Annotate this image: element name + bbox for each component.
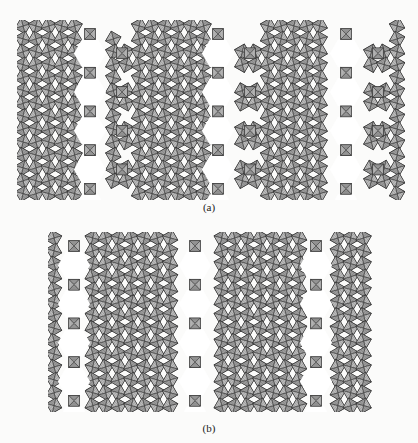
tilted-octahedron bbox=[170, 186, 185, 200]
tilted-octahedron bbox=[299, 44, 314, 59]
tilted-octahedron bbox=[312, 83, 327, 98]
caption-a: (a) bbox=[203, 201, 215, 213]
tilted-octahedron bbox=[137, 282, 152, 297]
tilted-octahedron bbox=[390, 31, 405, 46]
tilted-octahedron bbox=[137, 232, 152, 246]
tilted-octahedron bbox=[286, 57, 301, 72]
tilted-octahedron bbox=[144, 31, 159, 46]
tilted-octahedron bbox=[214, 321, 229, 336]
tilted-octahedron bbox=[227, 385, 242, 400]
tilted-octahedron bbox=[266, 308, 281, 323]
square-octahedron bbox=[373, 48, 384, 59]
tilted-octahedron bbox=[214, 243, 229, 258]
tilted-octahedron bbox=[377, 96, 392, 111]
tilted-octahedron bbox=[214, 256, 229, 271]
tilted-octahedron bbox=[170, 147, 185, 162]
tilted-octahedron bbox=[330, 385, 345, 400]
tilted-octahedron bbox=[253, 232, 268, 246]
tilted-octahedron bbox=[279, 347, 294, 362]
square-octahedron bbox=[69, 357, 80, 368]
tilted-octahedron bbox=[356, 398, 371, 412]
square-octahedron bbox=[311, 396, 322, 407]
tilted-octahedron bbox=[261, 160, 276, 175]
tilted-octahedron bbox=[279, 372, 294, 387]
tilted-octahedron bbox=[144, 44, 159, 59]
tilted-octahedron bbox=[273, 57, 288, 72]
tilted-octahedron bbox=[132, 122, 147, 137]
tilted-octahedron bbox=[48, 243, 62, 258]
tilted-octahedron bbox=[17, 109, 31, 124]
tilted-octahedron bbox=[48, 308, 62, 323]
tilted-octahedron bbox=[279, 398, 294, 412]
tilted-octahedron bbox=[312, 70, 327, 85]
tilted-octahedron bbox=[266, 256, 281, 271]
tilted-octahedron bbox=[132, 20, 147, 34]
tilted-octahedron bbox=[253, 372, 268, 387]
tilted-octahedron bbox=[312, 96, 327, 111]
tilted-octahedron bbox=[183, 122, 198, 137]
tilted-octahedron bbox=[279, 334, 294, 349]
tilted-octahedron bbox=[183, 160, 198, 175]
tilted-octahedron bbox=[266, 334, 281, 349]
tilted-octahedron bbox=[356, 334, 371, 349]
tilted-octahedron bbox=[253, 347, 268, 362]
tilted-octahedron bbox=[227, 308, 242, 323]
tilted-octahedron bbox=[98, 347, 113, 362]
tilted-octahedron bbox=[214, 308, 229, 323]
tilted-octahedron bbox=[261, 173, 276, 188]
tilted-octahedron bbox=[137, 269, 152, 284]
tilted-octahedron bbox=[41, 160, 56, 175]
tilted-octahedron bbox=[150, 347, 165, 362]
tilted-octahedron bbox=[214, 347, 229, 362]
tilted-octahedron bbox=[356, 232, 371, 246]
tilted-octahedron bbox=[273, 83, 288, 98]
tilted-octahedron bbox=[214, 282, 229, 297]
tilted-octahedron bbox=[299, 70, 314, 85]
tilted-octahedron bbox=[163, 321, 178, 336]
tilted-octahedron bbox=[253, 256, 268, 271]
square-octahedron bbox=[85, 184, 96, 195]
tilted-octahedron bbox=[227, 243, 242, 258]
tilted-octahedron bbox=[312, 122, 327, 137]
tilted-octahedron bbox=[279, 232, 294, 246]
tilted-octahedron bbox=[253, 243, 268, 258]
tilted-octahedron bbox=[137, 321, 152, 336]
tilted-octahedron bbox=[240, 372, 255, 387]
tilted-octahedron bbox=[356, 347, 371, 362]
tilted-octahedron bbox=[390, 186, 405, 200]
tilted-octahedron bbox=[214, 372, 229, 387]
tilted-octahedron bbox=[132, 109, 147, 124]
tilted-octahedron bbox=[157, 147, 172, 162]
tilted-octahedron bbox=[41, 135, 56, 150]
tilted-octahedron bbox=[17, 31, 31, 46]
tilted-octahedron bbox=[273, 147, 288, 162]
tilted-octahedron bbox=[273, 31, 288, 46]
tilted-octahedron bbox=[286, 44, 301, 59]
tilted-octahedron bbox=[111, 334, 126, 349]
tilted-octahedron bbox=[119, 96, 134, 111]
tilted-octahedron bbox=[273, 20, 288, 34]
tilted-octahedron bbox=[390, 96, 405, 111]
tilted-octahedron bbox=[390, 135, 405, 150]
tilted-octahedron bbox=[299, 135, 314, 150]
tilted-octahedron bbox=[137, 372, 152, 387]
tilted-octahedron bbox=[273, 70, 288, 85]
tilted-octahedron bbox=[299, 109, 314, 124]
tilted-octahedron bbox=[292, 398, 307, 412]
tilted-octahedron bbox=[150, 243, 165, 258]
tilted-octahedron bbox=[98, 295, 113, 310]
tilted-octahedron bbox=[28, 31, 43, 46]
tilted-octahedron bbox=[261, 31, 276, 46]
square-octahedron bbox=[85, 67, 96, 78]
square-octahedron bbox=[373, 164, 384, 175]
tilted-octahedron bbox=[41, 147, 56, 162]
tilted-octahedron bbox=[111, 398, 126, 412]
tilted-octahedron bbox=[286, 122, 301, 137]
tilted-octahedron bbox=[312, 44, 327, 59]
tilted-octahedron bbox=[364, 57, 379, 72]
tilted-octahedron bbox=[85, 359, 100, 374]
tilted-octahedron bbox=[144, 147, 159, 162]
hexagonal-channel bbox=[179, 251, 211, 279]
tilted-octahedron bbox=[137, 256, 152, 271]
tilted-octahedron bbox=[132, 173, 147, 188]
